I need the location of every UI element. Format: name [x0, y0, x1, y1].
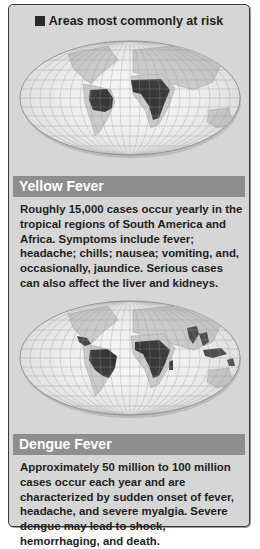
risk-swatch-icon	[35, 16, 45, 26]
yellow-fever-description: Roughly 15,000 cases occur yearly in the…	[20, 202, 244, 291]
legend-label: Areas most commonly at risk	[49, 14, 223, 28]
dengue-fever-header: Dengue Fever	[13, 434, 245, 455]
dengue-fever-description: Approximately 50 million to 100 million …	[20, 460, 244, 549]
dengue-fever-map	[13, 292, 247, 424]
map-legend: Areas most commonly at risk	[9, 14, 249, 28]
yellow-fever-map	[13, 32, 247, 164]
disease-risk-panel: Areas most commonly at risk	[8, 4, 250, 527]
yellow-fever-header: Yellow Fever	[13, 176, 245, 197]
